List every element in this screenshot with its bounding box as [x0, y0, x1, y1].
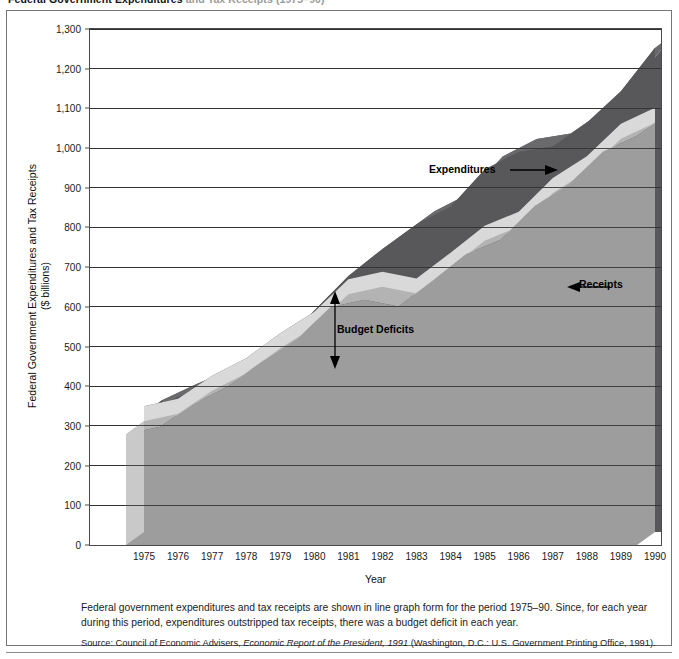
figure-title-light: and Tax Receipts (1975–90) — [186, 0, 325, 5]
x-axis-tick-label: 1988 — [576, 551, 598, 562]
y-axis-tick-label: 300 — [64, 420, 81, 431]
figure-title: Federal Government Expenditures and Tax … — [8, 0, 668, 7]
y-axis-tick-label: 0 — [75, 540, 81, 551]
x-axis-title: Year — [89, 573, 662, 585]
x-axis-tick-label: 1976 — [167, 551, 189, 562]
caption-block: Federal government expenditures and tax … — [81, 601, 659, 650]
y-axis-tick-label: 500 — [64, 341, 81, 352]
y-axis-tick-label: 100 — [64, 500, 81, 511]
x-axis-tick-label: 1979 — [269, 551, 291, 562]
x-axis-tick-label: 1986 — [508, 551, 530, 562]
annotation-budget-deficits: Budget Deficits — [337, 323, 414, 335]
annotation-receipts: Receipts — [579, 278, 623, 290]
x-axis-tick-label: 1980 — [303, 551, 325, 562]
y-axis-tick-label: 700 — [64, 262, 81, 273]
receipts-right-face — [637, 123, 655, 545]
x-axis-tick-label: 1981 — [337, 551, 359, 562]
receipts-front-slab — [126, 136, 637, 545]
figure-container: Federal Government Expenditures and Tax … — [0, 0, 679, 659]
y-axis-tick-label: 200 — [64, 460, 81, 471]
x-axis-tick-label: 1989 — [610, 551, 632, 562]
annotation-expenditures: Expenditures — [429, 163, 496, 175]
plot-area — [89, 28, 662, 546]
caption-source: Source: Council of Economic Advisers, Ec… — [81, 637, 659, 650]
figure-title-strong: Federal Government Expenditures — [8, 0, 183, 5]
bottom-rule — [6, 652, 672, 653]
x-axis-tick-label: 1978 — [235, 551, 257, 562]
y-axis-tick-label: 1,300 — [56, 24, 81, 35]
x-axis-tick-label: 1984 — [439, 551, 461, 562]
y-axis-tick-label: 600 — [64, 301, 81, 312]
receipts-left-endcap — [126, 421, 144, 545]
area-chart-svg — [90, 29, 661, 545]
y-axis-tick-label: 1,100 — [56, 103, 81, 114]
x-axis-tick-label: 1990 — [644, 551, 666, 562]
x-axis-tick-label: 1975 — [133, 551, 155, 562]
x-axis-tick-label: 1985 — [474, 551, 496, 562]
y-axis-tick-label: 400 — [64, 381, 81, 392]
y-axis-tick-label: 800 — [64, 222, 81, 233]
caption-source-title: Economic Report of the President, 1991 — [243, 638, 408, 648]
caption-body: Federal government expenditures and tax … — [81, 601, 659, 630]
caption-source-suffix: (Washington, D.C.: U.S. Government Print… — [408, 638, 656, 648]
x-axis-ticklabels: 1975197619771978197919801981198219831984… — [89, 551, 662, 567]
y-axis-tick-label: 1,000 — [56, 143, 81, 154]
y-axis-tick-label: 1,200 — [56, 63, 81, 74]
x-axis-tick-label: 1977 — [201, 551, 223, 562]
y-axis-title: Federal Government Expenditures and Tax … — [26, 86, 52, 486]
x-axis-tick-label: 1987 — [542, 551, 564, 562]
x-axis-tick-label: 1983 — [405, 551, 427, 562]
caption-source-prefix: Source: Council of Economic Advisers, — [81, 638, 243, 648]
figure-panel: 01002003004005006007008009001,0001,1001,… — [6, 10, 672, 646]
y-axis-tick-label: 900 — [64, 182, 81, 193]
x-axis-tick-label: 1982 — [371, 551, 393, 562]
